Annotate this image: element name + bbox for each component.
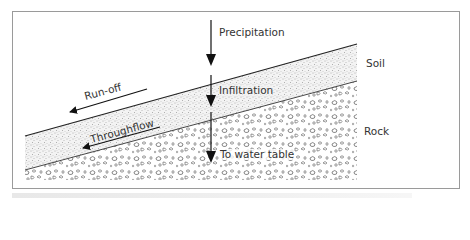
precipitation-arrowhead-icon — [206, 54, 216, 66]
precipitation-label: Precipitation — [219, 27, 285, 38]
soil-label: Soil — [366, 58, 385, 69]
rock-label: Rock — [364, 126, 389, 137]
infiltration-label: Infiltration — [219, 85, 273, 96]
blurred-caption-strip — [12, 193, 412, 198]
to-water-table-label: To water table — [220, 149, 294, 160]
